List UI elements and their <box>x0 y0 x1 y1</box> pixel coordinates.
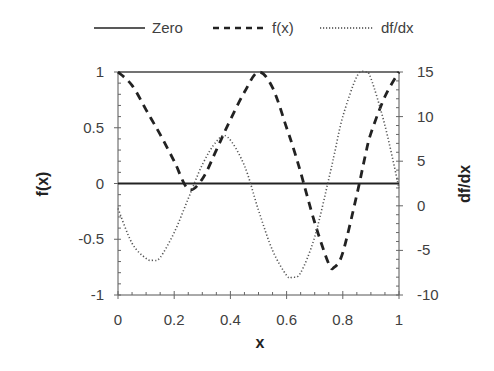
chart: Zero f(x) df/dx 00.20.40.60.8110.50-0.5-… <box>0 0 494 371</box>
y-tick-label: -1 <box>91 286 104 303</box>
y-tick-label: 0 <box>96 175 104 192</box>
y-tick-label: -0.5 <box>78 230 104 247</box>
tick-labels: 00.20.40.60.8110.50-0.5-1151050-5-10 <box>78 63 439 328</box>
y2-tick-label: -10 <box>417 286 439 303</box>
y2-tick-label: 5 <box>417 152 425 169</box>
legend-label-dfdx: df/dx <box>381 19 414 36</box>
series-f-x--line <box>118 72 399 269</box>
x-tick-label: 1 <box>395 311 403 328</box>
y-axis-title: f(x) <box>34 172 51 197</box>
y2-tick-label: 15 <box>417 63 434 80</box>
y2-tick-label: -5 <box>417 241 430 258</box>
x-tick-label: 0.4 <box>220 311 241 328</box>
plot-series <box>118 71 399 278</box>
series-df-dx-line <box>118 71 399 278</box>
x-axis-title: x <box>256 334 265 351</box>
y2-tick-label: 0 <box>417 197 425 214</box>
x-tick-label: 0 <box>114 311 122 328</box>
y-tick-label: 1 <box>96 63 104 80</box>
y2-axis-title: df/dx <box>456 165 473 203</box>
x-tick-label: 0.2 <box>164 311 185 328</box>
x-tick-label: 0.8 <box>332 311 353 328</box>
legend: Zero f(x) df/dx <box>94 19 414 36</box>
y-tick-label: 0.5 <box>83 119 104 136</box>
x-tick-label: 0.6 <box>276 311 297 328</box>
y2-tick-label: 10 <box>417 108 434 125</box>
legend-label-fx: f(x) <box>272 19 294 36</box>
legend-label-zero: Zero <box>152 19 183 36</box>
